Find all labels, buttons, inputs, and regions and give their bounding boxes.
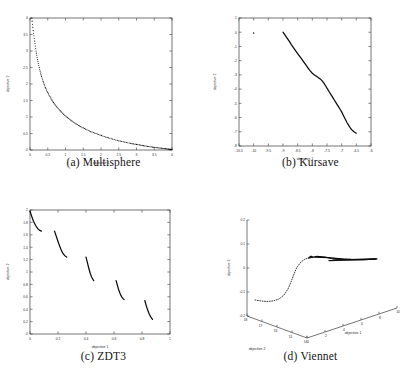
svg-text:2: 2 [26,208,28,212]
y-axis-ticks-a: 00.511.522.533.54 [23,16,172,152]
svg-text:2.5: 2.5 [23,66,28,70]
svg-text:6: 6 [361,322,363,326]
caption-kursave: (b) Kursave [207,156,414,168]
svg-text:0: 0 [26,332,28,336]
x-axis-ticks-b: -10.5-10-9.5-9-8.5-8-7.5-7-6.5-6 [235,18,372,153]
svg-text:1: 1 [26,115,28,119]
svg-text:1.6: 1.6 [23,233,28,237]
svg-text:-3: -3 [234,73,237,77]
figure-pareto-fronts: 00.511.522.533.54 00.511.522.533.54 obje… [0,0,414,392]
plot-multisphere: 00.511.522.533.54 00.511.522.533.54 obje… [0,4,207,172]
svg-text:3.5: 3.5 [23,33,28,37]
svg-text:-6.5: -6.5 [353,149,359,153]
svg-text:8: 8 [379,316,381,320]
svg-text:1: 1 [235,16,237,20]
svg-text:-6: -6 [234,116,237,120]
plot-frame-a [30,18,172,150]
svg-text:2: 2 [26,82,28,86]
x-axis-ticks-c: 00.20.40.60.81 [29,210,171,341]
svg-text:1.2: 1.2 [23,258,28,262]
svg-text:0.6: 0.6 [23,295,28,299]
svg-text:-7: -7 [340,149,343,153]
plot-frame-c [30,210,170,334]
plot-zdt3: 00.20.40.60.81 00.20.40.60.811.21.41.61.… [0,198,207,368]
svg-text:-0.1: -0.1 [240,290,246,294]
svg-text:-2: -2 [234,59,237,63]
y-axis-label-c: objective 2 [6,264,10,281]
svg-text:-1: -1 [234,45,237,49]
svg-text:4: 4 [26,16,28,20]
svg-text:17: 17 [259,324,263,328]
svg-text:-8.5: -8.5 [295,149,301,153]
x-axis-label-c: objective 1 [92,345,109,349]
data-series-viennet [255,256,377,301]
svg-text:15: 15 [289,335,293,339]
svg-text:0.6: 0.6 [112,337,117,341]
caption-viennet: (d) Viennet [207,350,414,362]
panel-kursave: -10.5-10-9.5-9-8.5-8-7.5-7-6.5-6 -8-7-6-… [207,4,414,172]
x-axis-label-d: objective 1 [345,331,362,335]
plot-kursave: -10.5-10-9.5-9-8.5-8-7.5-7-6.5-6 -8-7-6-… [207,4,414,172]
y-axis-label-b: objective 2 [213,74,217,91]
svg-text:0: 0 [235,31,237,35]
z-axis-label-d: objective 3 [227,260,231,277]
svg-text:-5: -5 [234,102,237,106]
svg-text:18: 18 [244,318,248,322]
svg-text:0: 0 [243,266,245,270]
svg-text:-4: -4 [234,87,237,91]
svg-text:0: 0 [26,148,28,152]
caption-zdt3: (c) ZDT3 [0,350,207,362]
svg-text:0.2: 0.2 [56,337,61,341]
svg-text:0.8: 0.8 [140,337,145,341]
svg-text:0.2: 0.2 [23,320,28,324]
svg-text:16: 16 [274,329,278,333]
svg-text:1: 1 [26,270,28,274]
svg-text:0.8: 0.8 [23,283,28,287]
svg-text:-8: -8 [311,149,314,153]
panel-multisphere: 00.511.522.533.54 00.511.522.533.54 obje… [0,4,207,172]
svg-text:1.5: 1.5 [23,99,28,103]
svg-text:0.2: 0.2 [241,218,246,222]
svg-text:-10: -10 [251,149,256,153]
panel-viennet: -0.2-0.100.10.2 1817161514 0246810 objec… [207,198,414,368]
svg-text:3: 3 [26,49,28,53]
caption-multisphere: (a) Multisphere [0,156,207,168]
z-axis-ticks-d: -0.2-0.100.10.2 [240,218,250,318]
svg-text:0.4: 0.4 [23,308,28,312]
data-series-zdt3 [30,211,153,319]
svg-text:-7: -7 [234,130,237,134]
svg-text:-9: -9 [282,149,285,153]
svg-text:10: 10 [396,310,400,314]
svg-text:1.4: 1.4 [23,246,28,250]
svg-text:0.4: 0.4 [84,337,89,341]
svg-text:0: 0 [29,337,31,341]
data-series-kursave [253,32,356,133]
svg-text:1: 1 [169,337,171,341]
svg-text:-10.5: -10.5 [235,149,243,153]
y-axis-label-a: objective 2 [6,76,10,93]
svg-text:0: 0 [307,340,309,344]
svg-text:-9.5: -9.5 [265,149,271,153]
plot-viennet: -0.2-0.100.10.2 1817161514 0246810 objec… [207,198,414,368]
y-axis-ticks-c: 00.20.40.60.811.21.41.61.82 [23,208,170,336]
svg-text:2: 2 [325,334,327,338]
svg-text:1.8: 1.8 [23,221,28,225]
data-series-multisphere [31,17,172,150]
svg-text:-6: -6 [370,149,373,153]
plot-frame-b [239,18,371,146]
svg-text:-8: -8 [234,144,237,148]
panel-zdt3: 00.20.40.60.81 00.20.40.60.811.21.41.61.… [0,198,207,368]
svg-text:0.5: 0.5 [23,132,28,136]
svg-text:0.1: 0.1 [241,242,246,246]
svg-text:-7.5: -7.5 [324,149,330,153]
